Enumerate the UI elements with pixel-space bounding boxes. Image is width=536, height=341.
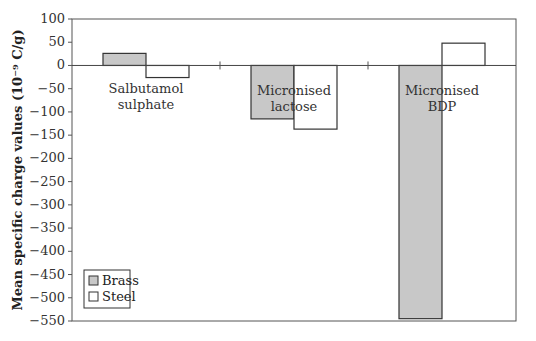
y-tick-label: −50 bbox=[38, 81, 65, 96]
y-tick-label: 0 bbox=[57, 57, 65, 72]
legend: Brass Steel bbox=[84, 270, 139, 308]
category-label: Micronised bbox=[405, 83, 479, 98]
legend-label-steel: Steel bbox=[102, 289, 136, 304]
y-tick-label: −100 bbox=[29, 104, 65, 119]
y-tick-label: 100 bbox=[40, 11, 65, 26]
y-tick-label: −250 bbox=[29, 174, 65, 189]
bar-steel bbox=[146, 65, 189, 77]
y-axis-label: Mean specific charge values (10⁻⁹ C/g) bbox=[10, 29, 25, 310]
y-tick-label: −400 bbox=[29, 243, 65, 258]
legend-swatch-steel bbox=[89, 292, 98, 301]
legend-swatch-brass bbox=[89, 276, 98, 285]
y-tick-label: −150 bbox=[29, 127, 65, 142]
legend-label-brass: Brass bbox=[102, 273, 139, 288]
bar-brass bbox=[103, 53, 146, 65]
y-tick-label: −450 bbox=[29, 267, 65, 282]
bar-steel bbox=[442, 43, 485, 65]
category-label: sulphate bbox=[118, 97, 175, 112]
category-label: lactose bbox=[271, 99, 318, 114]
category-label: Micronised bbox=[257, 83, 331, 98]
y-tick-label: −300 bbox=[29, 197, 65, 212]
y-tick-label: −500 bbox=[29, 290, 65, 305]
y-tick-label: −550 bbox=[29, 313, 65, 328]
y-tick-label: 50 bbox=[48, 34, 65, 49]
y-tick-label: −200 bbox=[29, 150, 65, 165]
bar-chart: 100500−50−100−150−200−250−300−350−400−45… bbox=[0, 0, 536, 341]
y-axis: 100500−50−100−150−200−250−300−350−400−45… bbox=[29, 11, 72, 328]
y-tick-label: −350 bbox=[29, 220, 65, 235]
category-label: Salbutamol bbox=[109, 81, 184, 96]
category-label: BDP bbox=[428, 99, 457, 114]
